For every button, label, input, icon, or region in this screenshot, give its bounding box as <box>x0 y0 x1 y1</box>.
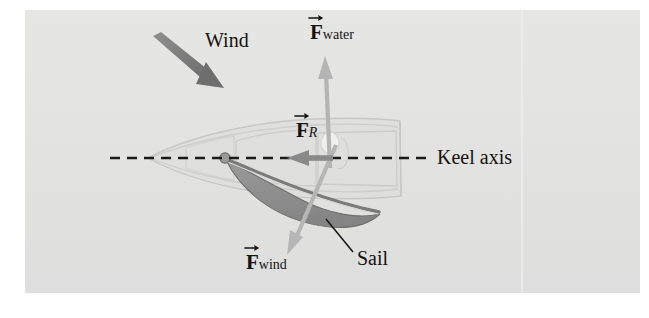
f-wind-symbol-stack: F <box>246 252 259 273</box>
diagram-canvas <box>0 0 649 318</box>
f-water-symbol: F <box>310 20 323 44</box>
f-resultant-symbol: F <box>296 118 309 142</box>
page-seam <box>521 10 523 293</box>
f-wind-subscript: wind <box>259 257 287 272</box>
f-resultant-symbol-stack: F <box>296 120 309 141</box>
wind-label: Wind <box>205 30 249 50</box>
f-wind-label: F wind <box>246 252 287 273</box>
sail-label: Sail <box>357 248 388 268</box>
f-water-symbol-stack: F <box>310 22 323 43</box>
f-resultant-subscript: R <box>309 125 318 140</box>
sailboat-force-diagram: Wind Keel axis Sail F water F R <box>0 0 649 318</box>
f-wind-symbol: F <box>246 250 259 274</box>
f-water-subscript: water <box>323 27 354 42</box>
keel-axis-label: Keel axis <box>437 147 512 167</box>
f-water-label: F water <box>310 22 354 43</box>
f-resultant-label: F R <box>296 120 317 141</box>
